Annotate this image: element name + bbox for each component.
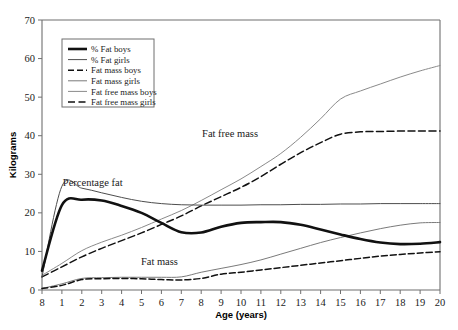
y-tick-label: 70 bbox=[25, 15, 36, 26]
y-tick-label: 50 bbox=[25, 92, 36, 103]
y-tick-label: 20 bbox=[25, 207, 36, 218]
x-tick-label: 10 bbox=[236, 297, 247, 308]
figure-container: 010203040506070 812345678910111213141516… bbox=[0, 0, 458, 330]
line-chart: 010203040506070 812345678910111213141516… bbox=[0, 0, 458, 330]
legend-label--fat-girls: % Fat girls bbox=[91, 55, 130, 65]
y-tick-label: 40 bbox=[25, 130, 36, 141]
x-tick-label: 20 bbox=[435, 297, 446, 308]
y-tick-label: 30 bbox=[25, 169, 36, 180]
x-tick-label: 2 bbox=[79, 297, 84, 308]
x-tick-label: 8 bbox=[199, 297, 204, 308]
annotation-fat-mass: Fat mass bbox=[141, 256, 178, 267]
y-axis-title: Kilograms bbox=[7, 132, 18, 178]
legend-label-fat-free-mass-girls: Fat free mass girls bbox=[91, 97, 156, 107]
x-tick-label: 11 bbox=[256, 297, 266, 308]
x-tick-label: 18 bbox=[395, 297, 406, 308]
x-tick-label: 13 bbox=[295, 297, 306, 308]
x-tick-label: 6 bbox=[159, 297, 164, 308]
x-tick-label: 1 bbox=[59, 297, 64, 308]
x-axis-title: Age (years) bbox=[215, 309, 267, 320]
x-tick-label: 3 bbox=[99, 297, 104, 308]
y-axis-tick-group: 010203040506070 bbox=[25, 15, 43, 296]
y-tick-label: 10 bbox=[25, 246, 36, 257]
y-tick-label: 60 bbox=[25, 53, 36, 64]
x-tick-label: 17 bbox=[375, 297, 386, 308]
annotation-fat-free-mass: Fat free mass bbox=[202, 128, 258, 139]
x-tick-label: 5 bbox=[139, 297, 144, 308]
x-tick-label: 15 bbox=[335, 297, 346, 308]
x-tick-label: 16 bbox=[355, 297, 366, 308]
legend-label-fat-mass-boys: Fat mass boys bbox=[91, 65, 141, 75]
annotation-percentage-fat: Percentage fat bbox=[63, 177, 123, 188]
legend-label-fat-mass-girls: Fat mass girls bbox=[91, 76, 140, 86]
legend-label--fat-boys: % Fat boys bbox=[91, 44, 131, 54]
x-tick-label: 8 bbox=[39, 297, 44, 308]
x-tick-label: 12 bbox=[276, 297, 287, 308]
x-tick-label: 14 bbox=[315, 297, 326, 308]
y-tick-label: 0 bbox=[30, 285, 35, 296]
x-tick-label: 7 bbox=[179, 297, 184, 308]
series-line-fat-mass-girls bbox=[42, 223, 440, 289]
x-tick-label: 19 bbox=[415, 297, 426, 308]
series-line-fat-mass-boys bbox=[42, 252, 440, 289]
x-axis-tick-group: 81234567891011121314151617181920 bbox=[39, 290, 445, 308]
x-tick-label: 4 bbox=[119, 297, 125, 308]
chart-legend: % Fat boys% Fat girlsFat mass boysFat ma… bbox=[62, 39, 157, 107]
legend-label-fat-free-mass-boys: Fat free mass boys bbox=[91, 87, 157, 97]
x-tick-label: 9 bbox=[218, 297, 223, 308]
series-line--fat-boys bbox=[42, 198, 440, 270]
